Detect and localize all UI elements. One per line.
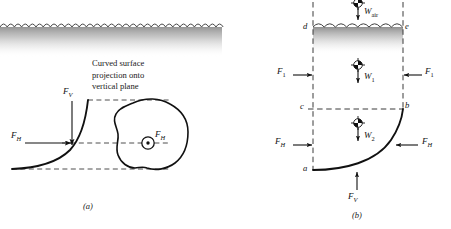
- panel-caption-a: (a): [83, 201, 93, 211]
- point-label-e: e: [405, 21, 409, 31]
- curved-surface-annotation: Curved surface projection onto vertical …: [92, 58, 144, 93]
- water-body-b: [313, 27, 403, 54]
- point-label-c: c: [300, 101, 304, 111]
- label-f-h-right-b: FH: [422, 136, 432, 148]
- label-f-v-bottom-b: FV: [348, 191, 357, 203]
- label-w-air-b: Wair: [364, 6, 378, 18]
- label-w-2-b: W2: [364, 130, 375, 142]
- projection-blob-a: [114, 99, 188, 169]
- panel-a: [0, 24, 223, 169]
- panel-caption-b: (b): [352, 210, 362, 220]
- water-body-a: [0, 27, 222, 57]
- point-label-d: d: [303, 21, 307, 31]
- label-f-v-a: FV: [63, 86, 72, 98]
- label-f-1-right-b: F1: [425, 66, 434, 78]
- point-label-b: b: [405, 100, 409, 110]
- figure-canvas: [0, 0, 451, 229]
- water-surface-wavy-a: [0, 24, 223, 27]
- into-page-dot-center-a: [146, 141, 149, 144]
- label-f-h-left-b: FH: [275, 136, 285, 148]
- label-f-1-left-b: F1: [277, 66, 286, 78]
- curved-surface-line-a: [12, 100, 88, 169]
- point-label-a: a: [303, 163, 307, 173]
- label-w-1-b: W1: [364, 71, 375, 83]
- panel-b: [293, 0, 422, 190]
- centroid-marker-air: [351, 0, 365, 10]
- label-f-h-a: FH: [11, 130, 21, 142]
- centroid-marker-w1: [351, 58, 365, 72]
- water-surface-wavy-b: [313, 24, 403, 27]
- label-f-h-projection-a: FH: [155, 129, 165, 141]
- centroid-marker-w2: [351, 116, 365, 130]
